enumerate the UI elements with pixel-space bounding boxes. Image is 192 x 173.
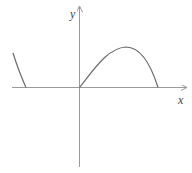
left-branch-curve [13,53,26,88]
function-graph: y x [0,0,192,173]
right-hump-curve [80,47,159,88]
x-axis-label: x [177,93,184,107]
y-axis-label: y [69,7,76,21]
